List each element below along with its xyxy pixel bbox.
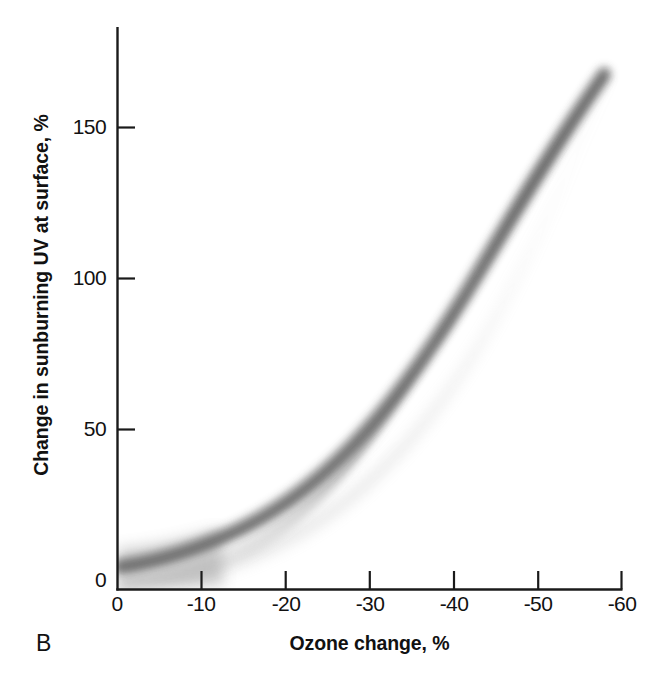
chart-figure: 150 100 50 0 0 -10 -20 -30 -40 -50 -60 C…: [0, 0, 667, 683]
x-tick-label: 0: [82, 592, 152, 616]
x-tick-label: -40: [419, 592, 489, 616]
x-tick-label: -30: [335, 592, 405, 616]
x-tick-label: -60: [587, 592, 657, 616]
x-tick-labels: 0 -10 -20 -30 -40 -50 -60: [0, 0, 667, 683]
panel-label: B: [36, 630, 52, 657]
x-tick-label: -10: [166, 592, 236, 616]
y-axis-title: Change in sunburning UV at surface, %: [24, 15, 58, 575]
x-tick-label: -20: [251, 592, 321, 616]
x-tick-label: -50: [503, 592, 573, 616]
x-axis-title: Ozone change, %: [117, 632, 622, 655]
